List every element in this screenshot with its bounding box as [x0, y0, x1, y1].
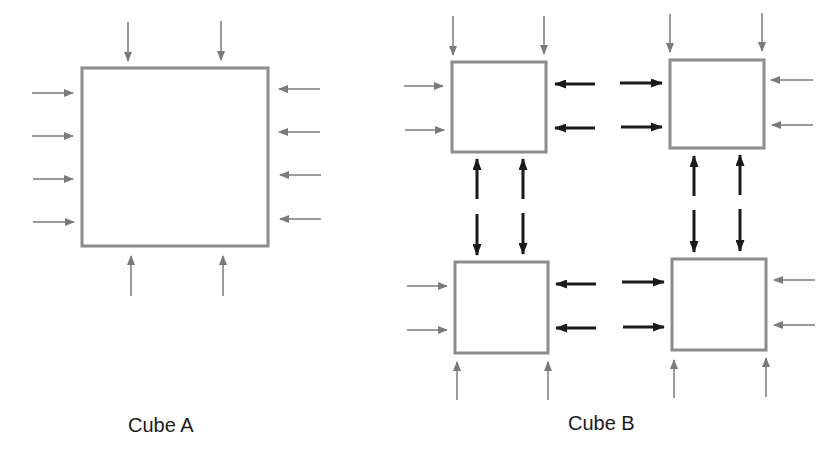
cube-b — [404, 13, 815, 400]
cube-b-box-top-left — [452, 62, 546, 152]
cube-a-box — [82, 68, 268, 246]
cube-a-external-arrows — [32, 21, 321, 296]
cube-b-box-bottom-right — [672, 259, 766, 350]
cube-diagram — [0, 0, 832, 469]
cube-b-box-top-right — [670, 60, 764, 148]
cube-b-label: Cube B — [568, 412, 635, 435]
cube-b-external-arrows — [404, 13, 815, 400]
cube-b-internal-arrows — [477, 83, 740, 328]
cube-a-label: Cube A — [128, 414, 194, 437]
cube-a — [32, 21, 321, 296]
cube-b-box-bottom-left — [455, 262, 548, 353]
